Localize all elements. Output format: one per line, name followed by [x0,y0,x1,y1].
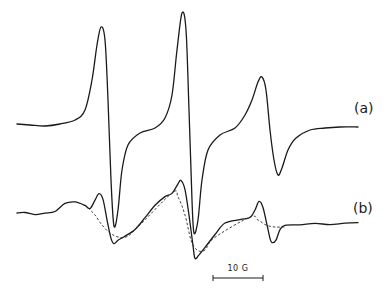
spectrum-trace-b [17,180,358,259]
trace-label-a: (a) [354,100,374,116]
spectra-plot: (a) (b) 10 G [0,0,389,295]
epr-spectra-figure: (a) (b) 10 G [0,0,389,295]
scale-bar: 10 G [213,264,263,281]
trace-label-b: (b) [353,200,373,216]
scale-bar-label: 10 G [228,264,249,273]
